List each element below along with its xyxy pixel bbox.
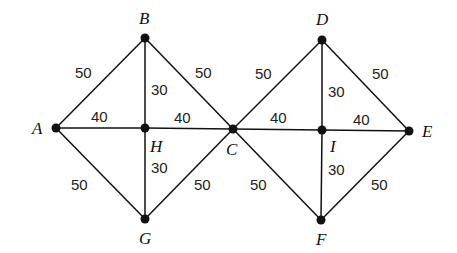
nodes-layer: [52, 34, 414, 225]
edge-a-g: [56, 128, 145, 219]
node-c: [229, 125, 238, 134]
edge-c-i: [233, 129, 322, 130]
edge-weight-label: 40: [270, 109, 287, 126]
node-h: [141, 124, 150, 133]
edge-weight-label: 30: [151, 81, 168, 98]
edge-weight-label: 50: [194, 176, 211, 193]
node-label-b: B: [139, 9, 150, 28]
node-label-e: E: [421, 122, 433, 141]
node-label-c: C: [226, 140, 238, 159]
edge-h-c: [145, 128, 233, 129]
edge-weight-label: 40: [353, 111, 370, 128]
edge-weight-label: 50: [75, 64, 92, 81]
node-e: [405, 127, 414, 136]
edge-weight-label: 50: [71, 176, 88, 193]
node-f: [317, 216, 326, 225]
edge-weight-label: 30: [151, 159, 168, 176]
node-label-a: A: [31, 119, 43, 138]
node-label-f: F: [315, 230, 327, 249]
edge-weight-label: 50: [372, 65, 389, 82]
edge-c-f: [233, 129, 321, 220]
node-d: [318, 36, 327, 45]
node-b: [141, 34, 150, 43]
node-label-h: H: [149, 137, 164, 156]
edge-weight-label: 30: [328, 161, 345, 178]
edge-i-f: [321, 130, 322, 220]
edge-i-e: [322, 130, 409, 131]
edge-weight-label: 30: [328, 83, 345, 100]
node-label-g: G: [139, 229, 151, 248]
node-i: [318, 126, 327, 135]
graph-diagram: 50503040403050505050304040305050 ABHGCDI…: [0, 0, 457, 253]
edge-weight-label: 50: [255, 65, 272, 82]
edge-weight-label: 50: [195, 64, 212, 81]
edge-weight-label: 50: [371, 176, 388, 193]
edge-weight-label: 40: [174, 109, 191, 126]
node-label-i: I: [329, 137, 337, 156]
node-g: [141, 215, 150, 224]
node-a: [52, 124, 61, 133]
node-label-d: D: [315, 10, 329, 29]
edge-weight-label: 40: [91, 108, 108, 125]
edge-weight-label: 50: [250, 176, 267, 193]
